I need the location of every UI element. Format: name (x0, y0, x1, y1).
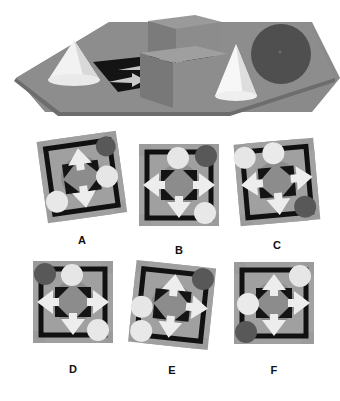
disc-light-bottomright[interactable] (194, 202, 216, 224)
option-tile-c-graphic: C (229, 135, 325, 235)
sphere-highlight (278, 50, 281, 53)
option-tile-f[interactable]: F (228, 258, 320, 358)
disc-light-topright[interactable] (289, 265, 311, 287)
tile-f-canvas (228, 258, 320, 358)
option-label-e: E (124, 364, 220, 376)
option-grid: A (0, 122, 340, 401)
option-label-f: F (228, 364, 320, 376)
disc-dark[interactable] (195, 145, 217, 167)
option-label-c: C (229, 239, 325, 251)
tile-c-canvas (229, 135, 325, 235)
option-tile-b-graphic: B (133, 140, 225, 240)
disc-light-top[interactable] (167, 147, 189, 169)
option-tile-e[interactable]: E (124, 258, 220, 358)
option-tile-d-graphic: D (27, 257, 119, 357)
option-tile-f-graphic: F (228, 258, 320, 358)
tile-e-canvas (124, 258, 220, 358)
disc-light-top[interactable] (61, 264, 83, 286)
option-tile-d[interactable]: D (27, 257, 119, 357)
disc-light-left[interactable] (237, 293, 259, 315)
option-label-a: A (34, 234, 130, 246)
option-tile-a[interactable]: A (34, 130, 130, 230)
sphere-right (251, 24, 311, 84)
screenshot-root: A (0, 0, 340, 401)
reference-3d-scene (0, 0, 340, 122)
option-label-b: B (133, 244, 225, 256)
disc-dark[interactable] (235, 321, 257, 343)
option-tile-c[interactable]: C (229, 135, 325, 235)
cone-right-base (215, 91, 257, 101)
tile-a-canvas (34, 130, 130, 230)
option-tile-a-graphic: A (34, 130, 130, 230)
option-tile-e-graphic: E (124, 258, 220, 358)
disc-light-bottomright[interactable] (87, 319, 109, 341)
scene-canvas (0, 0, 340, 122)
tile-b-canvas (133, 140, 225, 240)
option-tile-b[interactable]: B (133, 140, 225, 240)
cone-left-base (48, 74, 100, 86)
tile-d-canvas (27, 257, 119, 357)
disc-dark[interactable] (34, 263, 56, 285)
option-label-d: D (27, 363, 119, 375)
